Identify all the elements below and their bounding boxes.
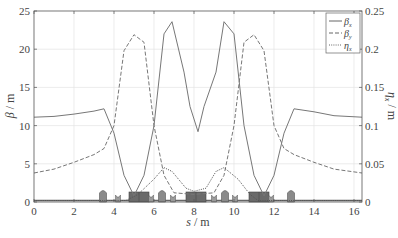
y-tick-label: 10 (19, 120, 31, 132)
y2-axis-ticks: 00.050.10.150.20.25 (359, 5, 385, 208)
quadrupole-magnet (159, 191, 166, 203)
sextupole-magnet (212, 195, 217, 202)
beta-function-chart: 0246810121416 0510152025 00.050.10.150.2… (0, 0, 398, 238)
data-curves (34, 22, 362, 201)
y-tick-label: 25 (19, 5, 31, 17)
y2-axis-label: ηx / m (383, 92, 398, 121)
x-tick-label: 14 (309, 205, 321, 217)
series-β-x (34, 22, 362, 196)
sextupole-magnet (171, 195, 176, 202)
grid-lines (34, 11, 362, 202)
x-axis-ticks: 0246810121416 (31, 11, 360, 217)
x-tick-label: 0 (31, 205, 37, 217)
y-tick-label: 20 (19, 43, 31, 55)
quadrupole-magnet (222, 191, 229, 203)
series-β-y (34, 35, 362, 195)
y-tick-label: 15 (19, 81, 31, 93)
x-tick-label: 2 (71, 205, 77, 217)
y2-tick-label: 0 (365, 196, 371, 208)
y2-tick-label: 0.1 (365, 120, 379, 132)
x-axis-label: s / m (186, 215, 210, 229)
y2-tick-label: 0.25 (365, 5, 385, 17)
plot-frame (34, 11, 362, 202)
y2-tick-label: 0.2 (365, 43, 379, 55)
x-tick-label: 10 (229, 205, 241, 217)
sextupole-magnet (149, 195, 154, 202)
x-tick-label: 12 (269, 205, 280, 217)
sextupole-magnet (233, 195, 238, 202)
y2-tick-label: 0.15 (365, 81, 385, 93)
y-tick-label: 0 (25, 196, 31, 208)
x-tick-label: 16 (349, 205, 361, 217)
y2-tick-label: 0.05 (365, 158, 385, 170)
y-tick-label: 5 (25, 158, 31, 170)
x-tick-label: 6 (151, 205, 157, 217)
y-axis-label: β / m (3, 93, 17, 119)
legend: βxβyηx (326, 13, 360, 53)
x-tick-label: 4 (111, 205, 117, 217)
